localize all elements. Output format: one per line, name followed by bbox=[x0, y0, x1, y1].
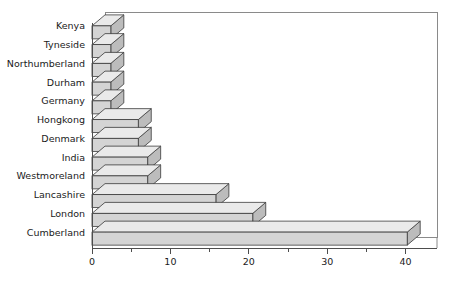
y-category-label: London bbox=[50, 208, 85, 219]
x-tick-label: 30 bbox=[321, 256, 333, 267]
y-category-label: Westmoreland bbox=[17, 170, 85, 181]
y-category-label: Germany bbox=[41, 95, 85, 106]
bars-group bbox=[92, 15, 420, 245]
y-category-label: Hongkong bbox=[37, 114, 85, 125]
chart-canvas: 010203040 KenyaTynesideNorthumberlandDur… bbox=[0, 0, 451, 281]
x-tick-label: 20 bbox=[243, 256, 255, 267]
bar-cumberland bbox=[92, 221, 420, 245]
bar-chart: 010203040 KenyaTynesideNorthumberlandDur… bbox=[0, 0, 451, 281]
y-category-label: India bbox=[62, 152, 85, 163]
x-tick-label: 0 bbox=[89, 256, 95, 267]
x-tick-label: 40 bbox=[400, 256, 412, 267]
y-category-label: Tyneside bbox=[43, 39, 85, 50]
bar-front-face bbox=[92, 232, 407, 245]
x-axis-ticks bbox=[92, 248, 406, 254]
y-category-label: Cumberland bbox=[27, 227, 85, 238]
x-tick-label: 10 bbox=[164, 256, 176, 267]
y-category-label: Kenya bbox=[56, 20, 85, 31]
x-tick-labels: 010203040 bbox=[89, 256, 412, 267]
y-category-label: Denmark bbox=[41, 133, 85, 144]
bar-top-face bbox=[92, 184, 229, 195]
y-category-labels: KenyaTynesideNorthumberlandDurhamGermany… bbox=[7, 20, 86, 237]
bar-top-face bbox=[92, 221, 420, 232]
bar-top-face bbox=[92, 202, 266, 213]
y-category-label: Durham bbox=[47, 77, 85, 88]
y-category-label: Northumberland bbox=[7, 58, 85, 69]
y-category-label: Lancashire bbox=[34, 189, 85, 200]
